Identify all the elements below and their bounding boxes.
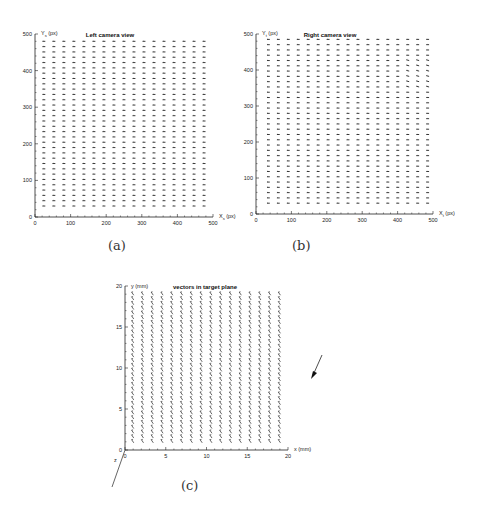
vector-field <box>43 41 206 206</box>
x-axis-label: Xs (px) <box>219 213 236 221</box>
y-tick-label: 300 <box>23 104 32 110</box>
y-tick-label: 100 <box>23 177 32 183</box>
y-tick-label: 0 <box>119 447 122 453</box>
y-tick-label: 100 <box>244 175 253 181</box>
x-tick-label: 5 <box>164 453 167 459</box>
x-axis-label: x (mm) <box>294 446 311 452</box>
y-tick-label: 200 <box>244 139 253 145</box>
plot-right-camera-view: 01002003004005000100200300400500Right ca… <box>244 30 455 223</box>
x-tick-label: 500 <box>428 217 437 223</box>
vector-field <box>267 39 429 203</box>
x-axis-label: Xt (px) <box>439 210 455 218</box>
x-tick-label: 400 <box>173 220 182 226</box>
x-tick-label: 20 <box>285 453 291 459</box>
reference-arrow <box>314 355 322 373</box>
y-tick-label: 500 <box>23 31 32 37</box>
x-tick-label: 300 <box>137 220 146 226</box>
x-tick-label: 0 <box>33 220 36 226</box>
x-tick-label: 0 <box>254 217 257 223</box>
y-axis-label: y (mm) <box>131 283 148 289</box>
vector-field <box>132 292 281 443</box>
y-tick-label: 400 <box>23 68 32 74</box>
y-tick-label: 400 <box>244 67 253 73</box>
y-axis-label: Yt (px) <box>262 30 278 38</box>
y-tick-label: 5 <box>119 406 122 412</box>
z-axis-label: z <box>114 457 117 463</box>
plot-title: Left camera view <box>86 32 135 38</box>
x-tick-label: 10 <box>203 453 209 459</box>
y-tick-label: 10 <box>116 365 122 371</box>
caption-c: (c) <box>181 478 198 493</box>
plot-title: vectors in target plane <box>173 284 238 290</box>
y-tick-label: 0 <box>250 211 253 217</box>
x-tick-label: 500 <box>208 220 217 226</box>
plot-vectors-target-plane: 0510152005101520vectors in target planey… <box>112 283 322 487</box>
y-tick-label: 200 <box>23 141 32 147</box>
x-tick-label: 15 <box>244 453 250 459</box>
x-tick-label: 400 <box>393 217 402 223</box>
caption-b: (b) <box>292 238 310 253</box>
y-tick-label: 300 <box>244 103 253 109</box>
x-tick-label: 300 <box>358 217 367 223</box>
y-tick-label: 20 <box>116 283 122 289</box>
y-axis-label: Ys (px) <box>41 30 58 38</box>
x-tick-label: 100 <box>287 217 296 223</box>
z-axis <box>112 450 125 487</box>
x-tick-label: 200 <box>322 217 331 223</box>
x-tick-label: 200 <box>102 220 111 226</box>
caption-a: (a) <box>108 238 126 253</box>
plot-left-camera-view: 01002003004005000100200300400500Left cam… <box>23 30 236 226</box>
y-tick-label: 0 <box>29 214 32 220</box>
figure-canvas: 01002003004005000100200300400500Left cam… <box>0 0 481 516</box>
plot-title: Right camera view <box>304 32 357 38</box>
y-tick-label: 500 <box>244 31 253 37</box>
x-tick-label: 100 <box>66 220 75 226</box>
y-tick-label: 15 <box>116 324 122 330</box>
reference-arrow-head <box>311 371 317 379</box>
